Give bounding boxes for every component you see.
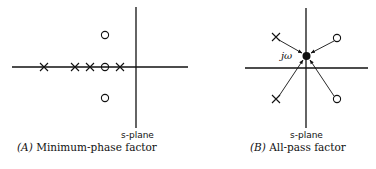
jw-label: jω	[281, 50, 292, 61]
jw-point	[303, 52, 311, 60]
panel-a-caption: (A) Minimum-phase factor	[17, 141, 157, 153]
panel-b-plane-label: s-plane	[290, 130, 323, 140]
panel-a-caption-letter: (A)	[17, 141, 33, 153]
panel-b-plot	[245, 8, 368, 128]
panel-a-caption-text: Minimum-phase factor	[36, 141, 157, 153]
panel-b-caption: (B) All-pass factor	[250, 141, 346, 153]
panel-b-caption-letter: (B)	[250, 141, 266, 153]
panel-a-plane-label: s-plane	[121, 130, 154, 140]
panel-b-caption-text: All-pass factor	[269, 141, 346, 153]
panel-a-plot	[12, 7, 188, 128]
